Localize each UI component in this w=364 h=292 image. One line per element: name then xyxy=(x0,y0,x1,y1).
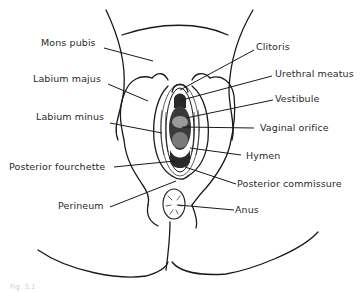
label-urethral-meatus: Urethral meatus xyxy=(275,68,354,79)
right-thigh-outline xyxy=(229,10,253,140)
label-posterior-commissure: Posterior commissure xyxy=(237,178,342,189)
left-buttock-curve xyxy=(38,250,168,277)
leader-mons-pubis xyxy=(104,48,153,61)
leader-posterior-fourchette xyxy=(114,161,175,167)
mons-upper-curve xyxy=(122,25,228,35)
labium-minus-right xyxy=(188,86,208,176)
leader-urethral-meatus xyxy=(182,76,272,100)
leader-anus xyxy=(178,205,234,210)
leader-vaginal-orifice xyxy=(182,127,254,128)
label-labium-majus: Labium majus xyxy=(33,73,101,84)
label-posterior-fourchette: Posterior fourchette xyxy=(9,161,105,172)
right-buttock-curve xyxy=(172,232,318,275)
label-mons-pubis: Mons pubis xyxy=(41,37,96,48)
label-hymen: Hymen xyxy=(246,150,280,161)
label-anus: Anus xyxy=(235,204,259,215)
label-vestibule: Vestibule xyxy=(275,93,319,104)
anus-outline xyxy=(163,189,185,219)
figure-caption: Fig. 3.1 xyxy=(10,283,36,291)
leader-hymen xyxy=(190,148,241,155)
label-clitoris: Clitoris xyxy=(256,41,290,52)
label-perineum: Perineum xyxy=(58,200,104,211)
label-vaginal-orifice: Vaginal orifice xyxy=(260,122,329,133)
label-labium-minus: Labium minus xyxy=(36,111,104,122)
left-thigh-outline xyxy=(106,10,124,140)
